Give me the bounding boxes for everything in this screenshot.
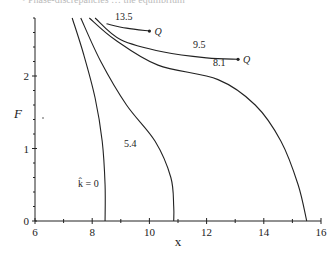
curve-3 [95,18,238,59]
endpoint-dot [236,58,239,61]
curves: QQ [72,18,307,221]
stray-dot [42,117,44,119]
x-tick-label: 6 [32,226,38,238]
x-tick-label: 12 [201,226,212,238]
curve-label: k̂ = 0 [78,177,99,189]
y-axis-title: F [13,106,23,121]
endpoint-dot [148,29,151,32]
curve-labels: k̂ = 05.48.19.513.5 [78,11,226,189]
curve-label: 8.1 [213,57,226,68]
curve-label: 5.4 [124,138,137,149]
endpoint-label-q: Q [243,54,251,65]
x-tick-label: 8 [89,226,95,238]
curve-4 [107,24,150,31]
axes: 6810121416012 [24,18,328,238]
curve-label: 13.5 [115,11,133,22]
chart: 6810121416012 QQ k̂ = 05.48.19.513.5 x F [0,0,335,256]
x-tick-label: 16 [316,226,328,238]
y-tick-label: 1 [24,143,30,155]
x-axis-title: x [175,234,182,249]
curve-label: 9.5 [193,39,206,50]
y-tick-label: 2 [24,70,30,82]
y-tick-label: 0 [24,215,30,227]
x-tick-label: 14 [258,226,270,238]
endpoint-label-q: Q [154,26,162,37]
x-tick-label: 10 [144,226,156,238]
curve-0 [72,18,105,221]
